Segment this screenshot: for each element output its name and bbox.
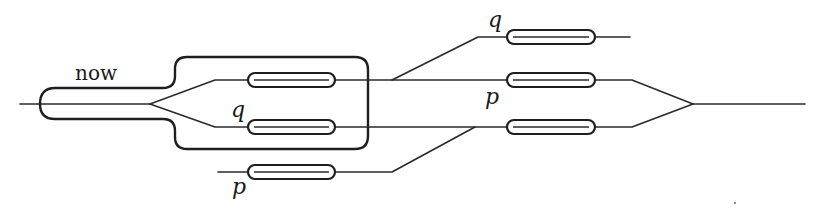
capsule-left-upper bbox=[248, 73, 335, 87]
scan-speck bbox=[734, 202, 736, 204]
label-q-top: q bbox=[488, 7, 502, 32]
output-wires bbox=[595, 37, 805, 127]
capsule-right-lower bbox=[507, 120, 595, 134]
label-p-middle: p bbox=[485, 84, 499, 109]
capsule-right-upper bbox=[507, 73, 595, 87]
capsule-right-top bbox=[507, 30, 595, 44]
label-q-middle: q bbox=[231, 97, 245, 122]
capsule-left-lower bbox=[248, 120, 335, 134]
label-now: now bbox=[75, 61, 117, 85]
branching-diagram: now q q p p bbox=[0, 0, 824, 213]
label-p-bottom: p bbox=[232, 174, 246, 199]
capsule-left-bottom bbox=[248, 165, 335, 179]
